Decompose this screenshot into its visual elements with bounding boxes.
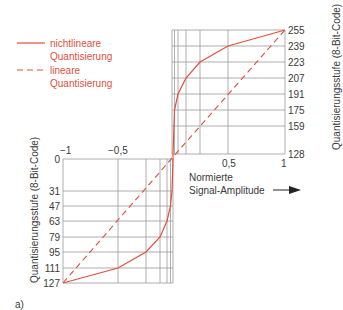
- tick-x-0-5: 0,5: [222, 158, 236, 169]
- tick-111: 111: [45, 263, 61, 274]
- figure-label: a): [15, 299, 24, 310]
- arrow-right-icon: [273, 186, 301, 194]
- tick-0: 0: [54, 154, 60, 165]
- tick-47: 47: [49, 201, 61, 212]
- tick-79: 79: [49, 232, 61, 243]
- left-y-label: Quantisierungsstufe (8-Bit-Code): [29, 137, 40, 283]
- tick-128: 128: [288, 149, 305, 160]
- x-label-1: Normierte: [189, 172, 233, 183]
- legend-linear-2: Quantisierung: [50, 78, 112, 89]
- right-y-ticks: 255 239 223 207 191 175 159 128: [288, 25, 305, 160]
- x-label-2: Signal-Amplitude: [189, 185, 265, 196]
- tick-159: 159: [288, 121, 305, 132]
- tick-175: 175: [288, 105, 305, 116]
- legend-linear-1: lineare: [50, 65, 80, 76]
- legend-nonlinear-1: nichtlineare: [50, 38, 102, 49]
- tick-x-minus-0-5: −0,5: [108, 145, 128, 156]
- tick-127: 127: [43, 278, 60, 289]
- tick-63: 63: [49, 216, 61, 227]
- tick-x-1: 1: [281, 158, 287, 169]
- left-y-ticks: 0 31 47 63 79 95 111 127: [43, 154, 60, 289]
- tick-95: 95: [49, 247, 61, 258]
- right-y-label: Quantisierungsstufe (8-Bit-Code): [331, 4, 342, 150]
- quantization-diagram: nichtlineare Quantisierung lineare Quant…: [0, 0, 343, 310]
- tick-191: 191: [288, 89, 305, 100]
- tick-x-minus-1: −1: [60, 145, 72, 156]
- tick-223: 223: [288, 57, 305, 68]
- tick-239: 239: [288, 41, 305, 52]
- legend-nonlinear-2: Quantisierung: [50, 51, 112, 62]
- tick-207: 207: [288, 73, 305, 84]
- legend: nichtlineare Quantisierung lineare Quant…: [17, 38, 112, 89]
- linear-curve: [63, 30, 285, 283]
- tick-31: 31: [49, 186, 61, 197]
- tick-255: 255: [288, 25, 305, 36]
